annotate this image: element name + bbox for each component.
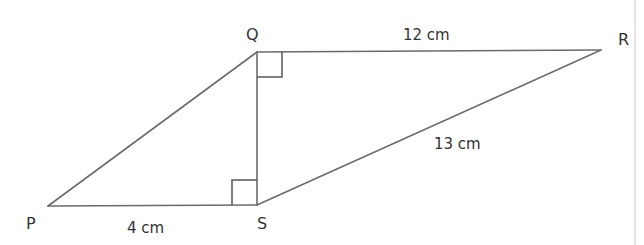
vertex-label-Q: Q (246, 25, 259, 44)
vertex-label-P: P (26, 214, 36, 233)
geometry-diagram: Q R P S 4 cm 12 cm 13 cm (0, 0, 644, 245)
right-angle-marker-Q (257, 52, 282, 77)
length-label-QR: 12 cm (403, 26, 450, 44)
segment-PS (48, 205, 257, 206)
segment-PQ (48, 52, 257, 206)
segment-QR (257, 50, 601, 52)
vertex-label-S: S (257, 214, 267, 233)
right-angle-marker-S (232, 180, 257, 205)
length-label-PS: 4 cm (127, 219, 164, 237)
segment-SR (257, 50, 601, 205)
length-label-SR: 13 cm (434, 135, 481, 153)
vertex-label-R: R (618, 30, 629, 49)
